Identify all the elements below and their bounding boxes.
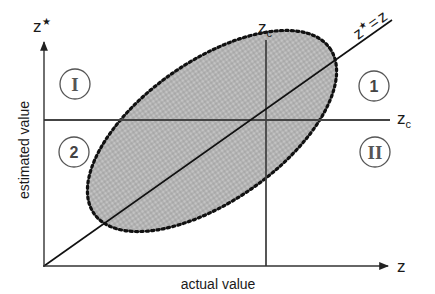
quadrant-marker-bottom-left: 2 [59, 137, 89, 167]
scatter-ellipse-diagram: z★ z zc zc z★=z actual value estimated v… [0, 0, 435, 294]
y-axis-symbol: z★ [33, 16, 51, 36]
diagram-canvas: z★ z zc zc z★=z actual value estimated v… [0, 0, 435, 294]
data-cloud-ellipse [54, 0, 370, 271]
y-axis-label: estimated value [16, 101, 32, 199]
cutoff-vertical-label: zc [258, 18, 273, 39]
svg-text:II: II [368, 142, 383, 163]
svg-text:2: 2 [70, 144, 79, 161]
svg-text:z★=z: z★=z [350, 7, 390, 42]
identity-line-label: z★=z [350, 7, 390, 42]
x-axis-symbol: z [397, 257, 406, 276]
quadrant-marker-bottom-right: II [360, 137, 390, 167]
cutoff-horizontal-label: zc [397, 109, 412, 130]
quadrant-marker-top-right: 1 [359, 71, 389, 101]
x-axis-label: actual value [181, 276, 256, 292]
quadrant-marker-top-left: I [60, 69, 90, 99]
svg-text:I: I [71, 74, 78, 95]
svg-text:1: 1 [370, 78, 379, 95]
